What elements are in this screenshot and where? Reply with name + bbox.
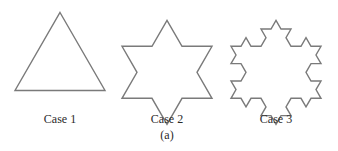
case-3-snowflake xyxy=(231,20,321,124)
case-1-label: Case 1 xyxy=(44,112,76,127)
case-2-label: Case 2 xyxy=(151,112,183,127)
case-1-triangle xyxy=(15,13,105,91)
case-2-star xyxy=(122,20,212,124)
case-3-label: Case 3 xyxy=(260,112,292,127)
figure-caption: (a) xyxy=(160,128,173,143)
